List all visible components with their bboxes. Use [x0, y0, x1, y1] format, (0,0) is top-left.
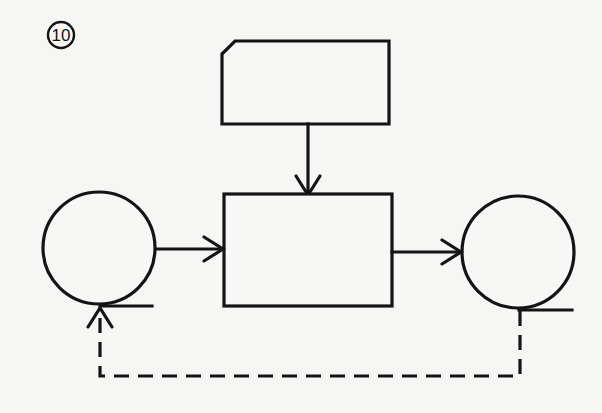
dashed-feedback-line	[100, 310, 520, 376]
tape-output-node	[462, 196, 574, 310]
punched-card-shape	[222, 41, 389, 124]
figure-number-badge: 10	[48, 22, 74, 48]
edge-feedback-dashed	[88, 308, 520, 376]
tape-input-node	[43, 192, 155, 306]
tape-output-circle	[462, 196, 574, 308]
process-node	[224, 194, 392, 306]
flowchart-diagram: 10	[0, 0, 602, 413]
card-input-node	[222, 41, 389, 124]
edge-tape-input-to-process	[156, 237, 223, 261]
tape-input-circle	[43, 192, 155, 304]
edge-process-to-tape-output	[392, 240, 461, 264]
edge-card-to-process	[296, 124, 320, 195]
process-rectangle	[224, 194, 392, 306]
figure-number-label: 10	[52, 26, 71, 45]
